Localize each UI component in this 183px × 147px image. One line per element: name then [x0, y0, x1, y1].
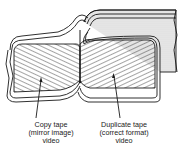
copy-label-line-3: video [20, 137, 82, 145]
copy-tape-label: Copy tape (mirror image) video [20, 121, 82, 145]
duplicate-tape-label: Duplicate tape (correct format) video [88, 121, 160, 145]
copy-tape-face [14, 44, 80, 92]
duplicate-tape-face [80, 40, 155, 89]
duplicate-label-line-3: video [88, 137, 160, 145]
